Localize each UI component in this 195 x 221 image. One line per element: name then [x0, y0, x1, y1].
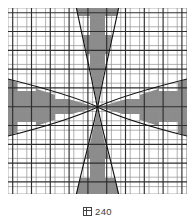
plot-area: [0, 0, 195, 200]
figure-caption: 240: [0, 200, 195, 221]
caption-number: 240: [95, 206, 112, 217]
caption-line: 240: [83, 206, 112, 217]
figure-root: 240: [0, 0, 195, 221]
caption-box-icon: [83, 207, 92, 216]
hyperbola-grid-plot: [0, 0, 195, 200]
